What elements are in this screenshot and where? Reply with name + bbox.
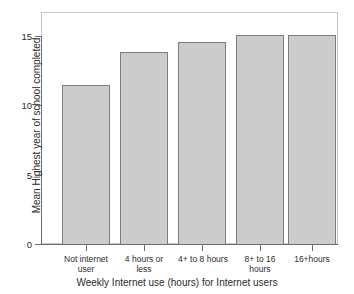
- x-tick-label-2-line1: 4+ to 8 hours: [170, 254, 236, 264]
- x-tick-label-1: 4 hours or less: [113, 254, 175, 274]
- x-tick-label-4-line1: 16+hours: [281, 254, 343, 264]
- x-tick-label-0-line2: user: [55, 264, 117, 274]
- bar-8-to-16-hours: [236, 35, 284, 245]
- x-tick-label-4: 16+hours: [281, 254, 343, 264]
- x-tick-3: [260, 245, 261, 251]
- bar-chart-figure: 0 5 10 15 Mean Highest year of school co…: [0, 0, 354, 294]
- x-tick-label-1-line2: less: [113, 264, 175, 274]
- y-tick-label-0: 0: [10, 240, 32, 250]
- x-axis-title: Weekly Internet use (hours) for Internet…: [0, 277, 354, 288]
- x-tick-label-0-line1: Not internet: [55, 254, 117, 264]
- x-tick-label-0: Not internet user: [55, 254, 117, 274]
- x-tick-2: [202, 245, 203, 251]
- bar-4-hours-or-less: [120, 52, 168, 245]
- y-tick-label-5: 5: [10, 171, 32, 181]
- x-tick-label-2: 4+ to 8 hours: [170, 254, 236, 264]
- x-tick-4: [312, 245, 313, 251]
- x-tick-label-3-line2: hours: [229, 264, 291, 274]
- x-tick-label-1-line1: 4 hours or: [113, 254, 175, 264]
- y-tick-label-10: 10: [10, 101, 32, 111]
- x-tick-0: [86, 245, 87, 251]
- bar-16-plus-hours: [288, 35, 336, 245]
- bar-4-to-8-hours: [178, 42, 226, 245]
- y-axis-title: Mean Highest year of school completed: [31, 16, 42, 236]
- x-tick-1: [144, 245, 145, 251]
- bar-not-internet-user: [62, 85, 110, 245]
- y-tick-label-15: 15: [10, 32, 32, 42]
